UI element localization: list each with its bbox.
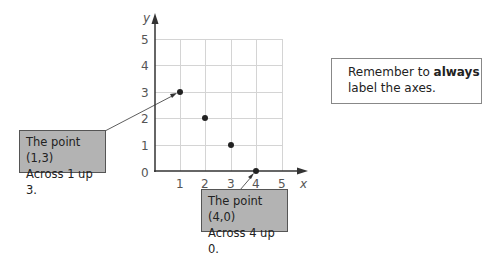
y-tick: 4 [141,59,149,73]
callout-line-1: The point (4,0) [208,193,281,225]
callout-line-2: Across 1 up 3. [26,166,99,198]
grid [155,39,283,171]
x-tick: 1 [176,177,184,191]
y-tick: 3 [141,86,149,100]
callout-line-2: Across 4 up 0. [208,225,281,257]
point-3-1 [228,142,234,148]
callout-point-1-3: The point (1,3) Across 1 up 3. [19,130,106,173]
note-prefix: Remember to [348,65,434,79]
callout-point-4-0: The point (4,0) Across 4 up 0. [201,189,288,232]
y-tick: 0 [141,166,149,180]
reminder-note: Remember to always label the axes. [331,58,482,104]
point-2-2 [202,115,208,121]
callout-line-1: The point (1,3) [26,134,99,166]
y-tick: 1 [141,139,149,153]
y-tick: 2 [141,112,149,126]
point-1-3 [177,89,183,95]
note-line-1: Remember to always [348,64,481,80]
note-line-2: label the axes. [348,80,481,96]
x-axis-label: x [299,177,308,191]
note-bold-word: always [434,65,480,79]
y-tick: 5 [141,33,149,47]
data-points [177,89,259,174]
y-axis-label: y [142,11,151,25]
